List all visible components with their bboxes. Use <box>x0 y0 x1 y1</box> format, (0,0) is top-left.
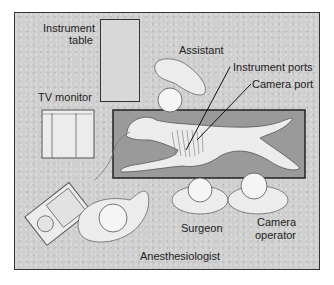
surgeon-figure-icon <box>172 178 228 214</box>
diagram-art <box>0 0 334 285</box>
tv-monitor-icon <box>42 110 94 158</box>
camera-operator-label-1: Camera <box>257 216 296 228</box>
anesthesiologist-label: Anesthesiologist <box>140 250 220 262</box>
assistant-figure-icon <box>155 59 206 112</box>
instrument-ports-label: Instrument ports <box>233 61 312 73</box>
camera-operator-label-2: operator <box>255 229 296 241</box>
surgeon-label: Surgeon <box>181 222 223 234</box>
camera-port-label: Camera port <box>252 78 313 90</box>
assistant-label: Assistant <box>179 44 224 56</box>
camera-operator-figure-icon <box>228 173 288 214</box>
anesthesiologist-figure-icon <box>78 191 149 242</box>
